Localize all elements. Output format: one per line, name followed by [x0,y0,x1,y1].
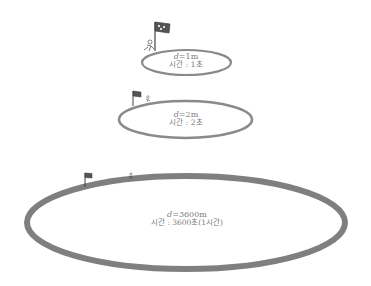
diagram-canvas: d=1m 시간 : 1초 d=2m 시간 : 2초 d=3600m 시간 : 3… [0,0,371,286]
time-label: 시간 : 3600초(1시간) [151,219,223,228]
finish-flag-icon [133,91,141,106]
time-label: 시간 : 1초 [169,61,202,70]
time-label: 시간 : 2초 [169,119,202,128]
runner-icon [146,96,150,102]
track-medium-label: d=2m 시간 : 2초 [169,110,202,128]
tracks-graphic [0,0,371,286]
track-large-label: d=3600m 시간 : 3600초(1시간) [151,210,223,228]
finish-flag-icon [155,22,170,51]
runner-icon [144,40,154,51]
track-small-label: d=1m 시간 : 1초 [169,52,202,70]
